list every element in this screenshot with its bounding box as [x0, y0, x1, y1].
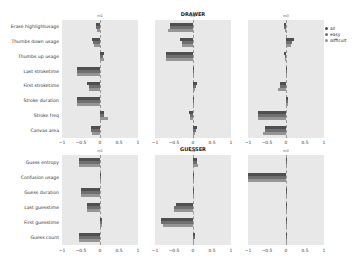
bar-difficult: [193, 239, 194, 242]
x-tick-label: 0.5: [116, 140, 123, 145]
bar-difficult: [286, 103, 288, 106]
bar-difficult: [190, 117, 193, 120]
y-axis-label: Stroke duration: [1, 98, 59, 103]
panel-title: m3: [248, 14, 324, 18]
x-tick-label: 0.5: [302, 248, 309, 253]
legend-item-difficult: difficult: [325, 37, 346, 43]
legend: all easy difficult: [325, 25, 346, 43]
legend-swatch-icon: [325, 27, 328, 30]
y-axis-label: Thumbs up usage: [1, 54, 59, 59]
zero-line: [193, 155, 194, 245]
x-tick-label: −0.5: [76, 140, 87, 145]
x-tick-label: 1: [323, 140, 326, 145]
y-axis-label: Canvas area: [1, 128, 59, 133]
y-axis-label: First stroketime: [1, 83, 59, 88]
plot-panel: m1: [62, 20, 138, 138]
x-tick-label: 0.5: [209, 140, 216, 145]
bar-difficult: [286, 209, 287, 212]
bar-difficult: [286, 44, 291, 47]
bar-difficult: [258, 117, 287, 120]
zero-line: [193, 20, 194, 138]
x-tick-label: −1: [59, 140, 65, 145]
bar-difficult: [193, 179, 194, 182]
plot-panel: m3: [248, 155, 324, 245]
bar-difficult: [285, 29, 286, 32]
panel-title: m1: [62, 149, 138, 153]
bar-difficult: [166, 58, 193, 61]
x-tick-label: 0.5: [116, 248, 123, 253]
bar-difficult: [193, 132, 195, 135]
zero-line: [286, 155, 287, 245]
x-tick-label: −0.5: [169, 140, 180, 145]
plot-panel: m1: [62, 155, 138, 245]
panel-title: m3: [248, 149, 324, 153]
x-tick-label: 0: [192, 140, 195, 145]
x-tick-label: 0: [99, 140, 102, 145]
y-axis-label: Guess entropy: [1, 160, 59, 165]
x-tick-label: −1: [152, 140, 158, 145]
y-axis-label: Last stroketime: [1, 69, 59, 74]
bar-difficult: [168, 29, 193, 32]
bar-difficult: [163, 224, 193, 227]
panel-title: m2: [155, 149, 231, 153]
plot-panel: m2: [155, 20, 231, 138]
bar-difficult: [193, 103, 194, 106]
x-tick-label: 1: [137, 248, 140, 253]
x-tick-label: −1: [245, 140, 251, 145]
bar-difficult: [286, 194, 287, 197]
bar-difficult: [285, 58, 286, 61]
bar-difficult: [286, 164, 287, 167]
bar-difficult: [100, 179, 101, 182]
legend-swatch-icon: [325, 39, 328, 42]
y-axis-label: Confusion usage: [1, 175, 59, 180]
bar-difficult: [193, 164, 198, 167]
plot-panel: m2: [155, 155, 231, 245]
bar-difficult: [193, 88, 195, 91]
bar-difficult: [81, 194, 100, 197]
x-tick-label: 1: [137, 140, 140, 145]
bar-difficult: [286, 73, 287, 76]
bar-difficult: [77, 103, 100, 106]
bar-difficult: [94, 44, 100, 47]
y-axis-label: Thumbs down usage: [1, 39, 59, 44]
y-axis-label: First guesstime: [1, 220, 59, 225]
bar-difficult: [92, 132, 100, 135]
bar-difficult: [286, 239, 287, 242]
x-tick-label: −0.5: [76, 248, 87, 253]
bar-difficult: [193, 73, 194, 76]
x-tick-label: 0: [192, 248, 195, 253]
bar-difficult: [286, 224, 287, 227]
bar-difficult: [174, 209, 193, 212]
bar-difficult: [193, 194, 194, 197]
bar-difficult: [89, 88, 100, 91]
bar-difficult: [100, 117, 108, 120]
bar-difficult: [79, 164, 100, 167]
plot-panel: m3: [248, 20, 324, 138]
y-axis-label: Last guesstime: [1, 205, 59, 210]
bar-difficult: [100, 58, 104, 61]
y-axis-label: Guess duration: [1, 190, 59, 195]
bar-difficult: [182, 44, 193, 47]
bar-difficult: [87, 209, 100, 212]
x-tick-label: 1: [323, 248, 326, 253]
x-tick-label: −1: [59, 248, 65, 253]
panel-title: m1: [62, 14, 138, 18]
x-tick-label: 0: [285, 140, 288, 145]
y-axis-label: Stroke freq: [1, 113, 59, 118]
x-tick-label: 0: [99, 248, 102, 253]
y-axis-label: Guess count: [1, 235, 59, 240]
x-tick-label: 0: [285, 248, 288, 253]
x-tick-label: 0.5: [209, 248, 216, 253]
zero-line: [100, 155, 101, 245]
x-tick-label: −0.5: [262, 140, 273, 145]
bar-difficult: [97, 29, 100, 32]
y-axis-label: Erase highlightusage: [1, 24, 59, 29]
bar-difficult: [100, 224, 102, 227]
x-tick-label: 1: [230, 248, 233, 253]
bar-difficult: [278, 88, 286, 91]
x-tick-label: −0.5: [169, 248, 180, 253]
bar-difficult: [248, 179, 286, 182]
bar-difficult: [263, 132, 286, 135]
legend-swatch-icon: [325, 33, 328, 36]
x-tick-label: −1: [245, 248, 251, 253]
